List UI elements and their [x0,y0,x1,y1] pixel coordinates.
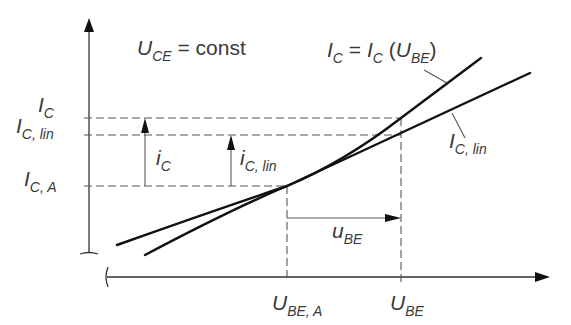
ic-lin-arrowhead [227,135,235,150]
tangent-label: IC, lin [449,129,487,157]
ic-arrow-label: iC [156,146,172,174]
ic-lin-arrow-label: iC, lin [240,146,277,174]
ube-arrow-label: uBE [332,219,363,247]
y-tick-ic-a: IC, A [24,167,57,195]
ic-lin-tangent [117,73,530,245]
y-axis-break [80,253,98,255]
curve-label: IC = IC (UBE) [327,38,437,66]
ic-curve [145,58,481,255]
x-tick-ube-a: UBE, A [272,291,322,319]
uce-const-label: UCE = const [137,36,246,64]
transistor-characteristic-diagram: UCE = const IC = IC (UBE) IC, lin IC IC,… [0,0,571,325]
y-axis-arrowhead [84,18,94,32]
x-tick-ube: UBE [390,291,425,319]
ube-arrowhead [385,214,401,222]
ic-arrowhead [141,118,149,133]
curve-label-leader [424,70,447,83]
y-tick-ic: IC [38,93,55,121]
x-axis-arrowhead [535,272,550,282]
